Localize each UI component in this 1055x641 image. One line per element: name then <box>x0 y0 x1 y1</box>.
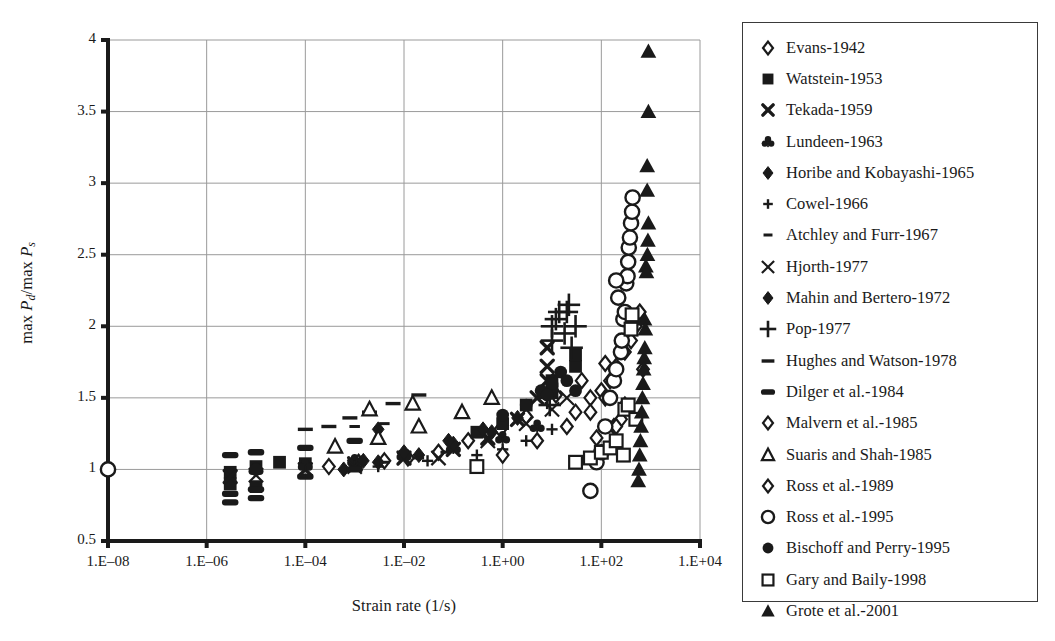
legend-item[interactable]: Watstein-1953 <box>743 63 1037 94</box>
filled-diamond-icon <box>757 162 779 184</box>
legend-item-label: Malvern et al.-1985 <box>786 413 918 433</box>
medium-dash-icon <box>757 350 779 372</box>
filled-diamond-icon <box>757 287 779 309</box>
legend-item[interactable]: Grote et al.-2001 <box>743 595 1037 626</box>
open-diamond-icon <box>757 412 779 434</box>
y-tick-label: 4 <box>36 30 96 47</box>
legend-item-label: Dilger et al.-1984 <box>786 382 904 402</box>
x-tick-label: 1.E–04 <box>260 553 350 570</box>
legend-item-label: Tekada-1959 <box>786 100 872 120</box>
data-points-layer <box>101 44 656 506</box>
y-tick-label: 2.5 <box>36 245 96 262</box>
filled-club-icon <box>757 131 779 153</box>
legend-item[interactable]: Suaris and Shah-1985 <box>743 439 1037 470</box>
legend-item-label: Lundeen-1963 <box>786 132 883 152</box>
series-ross-et-al-1995 <box>101 190 640 498</box>
legend-item[interactable]: Bischoff and Perry-1995 <box>743 533 1037 564</box>
legend-item[interactable]: Hjorth-1977 <box>743 251 1037 282</box>
legend-item[interactable]: Mahin and Bertero-1972 <box>743 282 1037 313</box>
y-axis-title: max Pd/max Ps <box>17 173 39 413</box>
legend-item-label: Bischoff and Perry-1995 <box>786 538 950 558</box>
series-horibe-and-kobayashi-1965 <box>338 410 523 477</box>
legend-item[interactable]: Atchley and Furr-1967 <box>743 220 1037 251</box>
filled-square-icon <box>757 68 779 90</box>
gridlines <box>108 40 700 541</box>
bold-x-icon <box>757 99 779 121</box>
legend-item-label: Gary and Baily-1998 <box>786 570 926 590</box>
legend-item-label: Watstein-1953 <box>786 69 882 89</box>
legend-item-label: Atchley and Furr-1967 <box>786 225 938 245</box>
legend-item-label: Mahin and Bertero-1972 <box>786 288 950 308</box>
legend-item-label: Hjorth-1977 <box>786 257 868 277</box>
thin-x-icon <box>757 256 779 278</box>
x-tick-label: 1.E+04 <box>655 553 745 570</box>
legend-item[interactable]: Ross et al.-1989 <box>743 470 1037 501</box>
legend-item-label: Horibe and Kobayashi-1965 <box>786 163 974 183</box>
plot-region: 1.E–081.E–061.E–041.E–021.E+001.E+021.E+… <box>0 0 735 641</box>
series-hughes-and-watson-1978 <box>298 395 427 429</box>
filled-circle-icon <box>757 537 779 559</box>
x-tick-label: 1.E–02 <box>359 553 449 570</box>
x-tick-label: 1.E–06 <box>162 553 252 570</box>
small-dash-icon <box>757 224 779 246</box>
x-tick-label: 1.E–08 <box>63 553 153 570</box>
legend-item-label: Ross et al.-1995 <box>786 507 894 527</box>
axis-ticks <box>101 40 700 548</box>
legend-item[interactable]: Pop-1977 <box>743 314 1037 345</box>
thick-dash-icon <box>757 381 779 403</box>
y-tick-label: 2 <box>36 316 96 333</box>
legend-item[interactable]: Tekada-1959 <box>743 95 1037 126</box>
filled-triangle-icon <box>757 600 779 622</box>
plot-canvas <box>0 0 735 641</box>
series-cowel-1966 <box>373 424 558 472</box>
legend-item-label: Suaris and Shah-1985 <box>786 445 932 465</box>
y-tick-label: 3.5 <box>36 102 96 119</box>
legend-item-label: Pop-1977 <box>786 319 851 339</box>
x-tick-label: 1.E+02 <box>556 553 646 570</box>
legend-item[interactable]: Dilger et al.-1984 <box>743 376 1037 407</box>
legend-item[interactable]: Malvern et al.-1985 <box>743 408 1037 439</box>
x-axis-title: Strain rate (1/s) <box>108 596 700 616</box>
y-tick-label: 1.5 <box>36 388 96 405</box>
legend-item-label: Cowel-1966 <box>786 194 868 214</box>
legend-item[interactable]: Cowel-1966 <box>743 188 1037 219</box>
legend-item[interactable]: Evans-1942 <box>743 32 1037 63</box>
y-tick-label: 0.5 <box>36 531 96 548</box>
legend-item-label: Grote et al.-2001 <box>786 601 899 621</box>
legend: Evans-1942Watstein-1953Tekada-1959Lundee… <box>742 22 1038 602</box>
open-triangle-icon <box>757 444 779 466</box>
legend-item[interactable]: Lundeen-1963 <box>743 126 1037 157</box>
big-plus-icon <box>757 318 779 340</box>
legend-item-label: Evans-1942 <box>786 38 865 58</box>
open-circle-icon <box>757 506 779 528</box>
legend-item[interactable]: Hughes and Watson-1978 <box>743 345 1037 376</box>
y-tick-label: 1 <box>36 459 96 476</box>
open-diamond-icon <box>757 37 779 59</box>
open-diamond-icon <box>757 475 779 497</box>
figure-scatter-strain-rate: 1.E–081.E–061.E–041.E–021.E+001.E+021.E+… <box>0 0 1055 641</box>
legend-item-label: Ross et al.-1989 <box>786 476 894 496</box>
legend-item[interactable]: Horibe and Kobayashi-1965 <box>743 157 1037 188</box>
legend-item[interactable]: Gary and Baily-1998 <box>743 564 1037 595</box>
legend-item-label: Hughes and Watson-1978 <box>786 351 957 371</box>
y-axis-title-text: max Pd/max Ps <box>17 242 36 344</box>
x-tick-label: 1.E+00 <box>458 553 548 570</box>
legend-item[interactable]: Ross et al.-1995 <box>743 501 1037 532</box>
y-tick-label: 3 <box>36 173 96 190</box>
open-square-icon <box>757 569 779 591</box>
small-plus-icon <box>757 193 779 215</box>
